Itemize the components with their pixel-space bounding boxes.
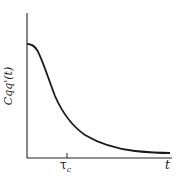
y-axis-label: Cqq'(t) <box>2 56 16 116</box>
correlation-curve <box>27 44 170 153</box>
tau-subscript: c <box>67 165 71 174</box>
tau-c-label: τc <box>60 158 71 174</box>
tau-symbol: τ <box>60 158 67 172</box>
x-axis-label: t <box>165 158 170 172</box>
chart-plot <box>0 0 180 183</box>
